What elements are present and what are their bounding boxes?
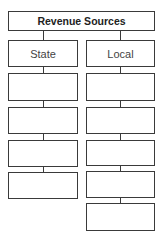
- local-label: Local: [107, 48, 133, 60]
- connector-root-state: [43, 31, 44, 40]
- local-blank-box-1[interactable]: [86, 73, 155, 101]
- local-blank-box-5[interactable]: [86, 203, 155, 231]
- connector-root-local: [120, 31, 121, 40]
- root-title: Revenue Sources: [37, 15, 125, 27]
- state-blank-box-3[interactable]: [8, 140, 78, 167]
- state-label: State: [30, 48, 56, 60]
- state-blank-box-4[interactable]: [8, 172, 78, 199]
- root-box-revenue-sources: Revenue Sources: [8, 11, 155, 31]
- column-header-state: State: [8, 40, 78, 67]
- local-blank-box-2[interactable]: [86, 107, 155, 134]
- local-blank-box-4[interactable]: [86, 171, 155, 198]
- column-header-local: Local: [86, 40, 155, 67]
- state-blank-box-1[interactable]: [8, 73, 78, 101]
- state-blank-box-2[interactable]: [8, 107, 78, 134]
- local-blank-box-3[interactable]: [86, 140, 155, 166]
